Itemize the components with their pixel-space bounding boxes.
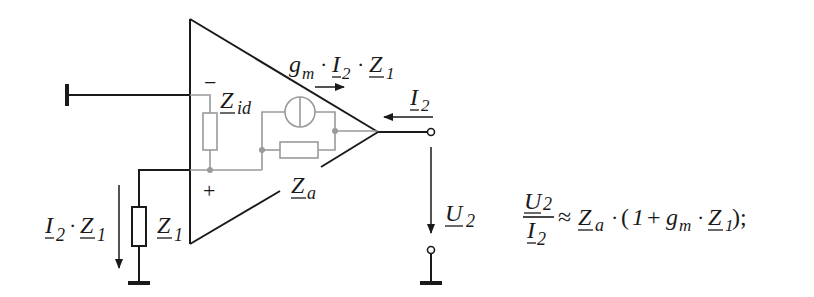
svg-text:Z: Z [80,212,94,238]
gm-label: g m · I 2 · Z 1 [289,51,395,83]
svg-text:1: 1 [97,225,106,245]
svg-text:Z: Z [369,51,383,77]
svg-text:·: · [357,52,364,77]
feedback-resistor [132,207,146,246]
circuit-diagram: − + g m · I 2 · Z 1 Z id Z a I 2 U 2 Z [0,0,814,297]
svg-text:I: I [331,51,341,77]
svg-text:·: · [69,213,76,238]
svg-text:(: ( [621,204,629,230]
za-label: Z a [291,172,316,203]
svg-text:·: · [697,205,704,230]
svg-text:·: · [320,52,327,77]
svg-text:2: 2 [342,64,351,83]
svg-text:I: I [44,212,54,238]
svg-text:1: 1 [174,225,183,245]
feedback-voltage-label: I 2 · Z 1 [44,212,106,245]
minus-sign: − [204,70,216,95]
output-terminal [428,129,435,136]
zid-label: Z id [220,87,252,118]
i2-label: I 2 [409,84,430,115]
svg-text:2: 2 [466,211,475,231]
svg-text:Z: Z [220,87,234,113]
svg-text:m: m [679,216,691,235]
svg-text:Z: Z [578,204,592,230]
svg-text:a: a [307,183,316,203]
svg-text:I: I [526,217,536,243]
svg-text:2: 2 [56,225,65,245]
svg-text:2: 2 [543,194,552,214]
svg-text:);: ); [732,204,747,230]
impedance-formula: U 2 I 2 ≈ Z a · ( 1 + g m · Z 1 ); [523,188,747,249]
plus-sign: + [203,178,215,203]
svg-text:1: 1 [632,204,644,230]
svg-text:Z: Z [157,212,171,238]
svg-text:g: g [289,51,301,77]
u2-label: U 2 [445,200,475,231]
internal-model [190,95,378,170]
svg-text:g: g [666,204,678,230]
svg-text:2: 2 [421,96,430,115]
svg-text:·: · [611,205,618,230]
ground-terminal [428,247,435,254]
svg-text:I: I [409,84,419,110]
svg-text:2: 2 [537,229,546,249]
output-impedance-resistor [280,142,318,158]
svg-text:a: a [595,215,604,235]
input-impedance-resistor [203,113,217,150]
svg-text:Z: Z [291,172,305,198]
svg-text:Z: Z [708,204,722,230]
svg-text:+: + [647,204,661,230]
svg-text:m: m [302,64,314,83]
inverting-input-wire [67,84,190,106]
svg-text:U: U [445,200,464,226]
svg-text:id: id [237,98,252,118]
svg-text:1: 1 [386,64,395,83]
svg-text:U: U [524,188,543,214]
svg-text:≈: ≈ [558,204,571,230]
output-wire [378,129,442,284]
z1-label: Z 1 [157,212,183,245]
